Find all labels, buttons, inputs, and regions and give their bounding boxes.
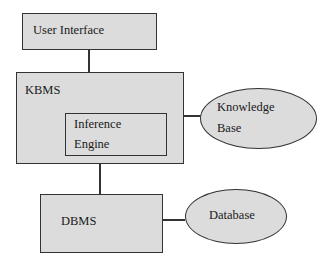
inference-engine-label-line2: Engine [74,137,109,152]
inference-engine-label-line1: Inference [74,117,121,132]
dbms-label: DBMS [61,214,96,229]
edge-kbms-knowledge-base [183,115,201,117]
inference-engine-box: Inference Engine [65,113,167,156]
dbms-box: DBMS [40,194,163,253]
knowledge-base-ellipse: Knowledge Base [200,88,317,149]
kbms-label: KBMS [25,83,60,98]
database-label: Database [209,208,255,223]
kbms-box: KBMS Inference Engine [16,72,184,164]
edge-ui-kbms [88,49,90,72]
user-interface-label: User Interface [33,23,104,38]
edge-dbms-database [162,219,185,221]
knowledge-base-label-line2: Base [217,121,241,136]
database-ellipse: Database [185,189,287,244]
knowledge-base-label-line1: Knowledge [217,100,275,115]
user-interface-box: User Interface [22,13,157,50]
edge-kbms-dbms [99,163,101,195]
